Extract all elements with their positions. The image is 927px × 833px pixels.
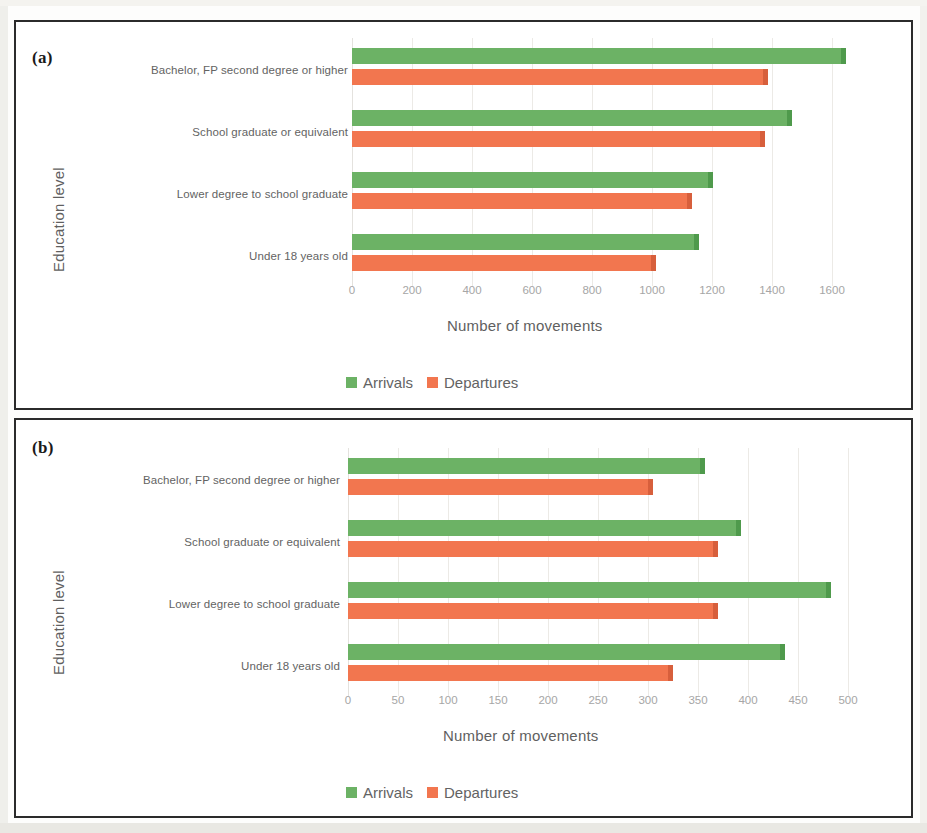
page-edge-top [0, 0, 927, 6]
y-axis-title-b: Education level [50, 570, 67, 675]
bar-body [348, 520, 736, 536]
bar-departures [352, 131, 765, 152]
x-axis-tick-label: 600 [522, 284, 541, 296]
bar-side-face [826, 582, 831, 598]
bar-departures [348, 541, 718, 562]
x-axis-tick-label: 1600 [819, 284, 845, 296]
legend-swatch-green-icon [346, 787, 357, 798]
legend-label-arrivals-b: Arrivals [363, 784, 413, 801]
bar-departures [348, 665, 673, 686]
bar-arrivals [348, 582, 831, 603]
bar-body [348, 665, 668, 681]
bar-departures [352, 69, 768, 90]
bar-side-face [687, 193, 692, 209]
bar-body [352, 193, 687, 209]
x-axis-title-text-a: Number of movements [447, 317, 603, 334]
bar-arrivals [348, 520, 741, 541]
x-axis-tick-label: 1400 [759, 284, 785, 296]
bar-arrivals [352, 172, 713, 193]
bar-body [352, 234, 694, 250]
bar-departures [348, 479, 653, 500]
y-axis-category-label: Under 18 years old [241, 660, 340, 672]
x-axis-tick-label: 100 [438, 694, 457, 706]
bar-side-face [651, 255, 656, 271]
legend-label-departures-b: Departures [444, 784, 518, 801]
x-axis-tick-label: 150 [488, 694, 507, 706]
x-axis-tick-label: 250 [588, 694, 607, 706]
legend-label-departures-a: Departures [444, 374, 518, 391]
legend-item-departures-b[interactable]: Departures [427, 784, 518, 801]
x-axis-tick-label: 300 [638, 694, 657, 706]
legend-b: Arrivals Departures [346, 784, 518, 801]
y-axis-category-label: Under 18 years old [249, 250, 348, 262]
y-axis-category-label: Bachelor, FP second degree or higher [143, 474, 340, 486]
x-axis-tick-label: 200 [538, 694, 557, 706]
x-axis-tick-label: 450 [788, 694, 807, 706]
bar-side-face [780, 644, 785, 660]
y-axis-category-label: School graduate or equivalent [192, 126, 348, 138]
bar-side-face [763, 69, 768, 85]
bar-side-face [841, 48, 846, 64]
gridline [848, 448, 849, 696]
x-axis-tick-label: 50 [392, 694, 405, 706]
y-axis-category-label: School graduate or equivalent [184, 536, 340, 548]
bar-arrivals [352, 48, 846, 69]
bar-arrivals [348, 644, 785, 665]
legend-swatch-green-icon [346, 377, 357, 388]
legend-swatch-orange-icon [427, 377, 438, 388]
bar-side-face [648, 479, 653, 495]
x-axis-tick-label: 1200 [699, 284, 725, 296]
bar-body [348, 603, 713, 619]
x-axis-tick-label: 800 [582, 284, 601, 296]
panel-label-b: (b) [32, 438, 54, 458]
bar-side-face [713, 541, 718, 557]
bar-departures [352, 255, 656, 276]
x-axis-tick-label: 400 [462, 284, 481, 296]
page-edge-left [0, 0, 8, 833]
legend-swatch-orange-icon [427, 787, 438, 798]
page-edge-bottom [0, 823, 927, 833]
bar-side-face [668, 665, 673, 681]
y-axis-category-label: Lower degree to school graduate [177, 188, 348, 200]
x-axis-tick-label: 350 [688, 694, 707, 706]
bar-side-face [787, 110, 792, 126]
x-axis-tick-label: 0 [345, 694, 351, 706]
bar-side-face [760, 131, 765, 147]
legend-item-arrivals-a[interactable]: Arrivals [346, 374, 413, 391]
legend-label-arrivals-a: Arrivals [363, 374, 413, 391]
chart-panel-b: (b) Education level Bachelor, FP second … [14, 418, 913, 818]
legend-a: Arrivals Departures [346, 374, 518, 391]
x-axis-tick-label: 400 [738, 694, 757, 706]
panel-label-a: (a) [32, 48, 53, 68]
gridline [832, 38, 833, 286]
bar-body [352, 255, 651, 271]
chart-panel-a: (a) Education level Bachelor, FP second … [14, 20, 913, 410]
y-axis-title-a: Education level [50, 167, 67, 272]
bar-body [348, 582, 826, 598]
bar-body [352, 69, 763, 85]
bar-side-face [713, 603, 718, 619]
y-axis-category-label: Lower degree to school graduate [169, 598, 340, 610]
page-edge-right [920, 0, 927, 833]
gridline [798, 448, 799, 696]
bar-body [348, 644, 780, 660]
x-axis-tick-label: 200 [402, 284, 421, 296]
bar-body [348, 479, 648, 495]
legend-item-departures-a[interactable]: Departures [427, 374, 518, 391]
bar-body [348, 541, 713, 557]
bar-side-face [708, 172, 713, 188]
x-axis-tick-label: 1000 [639, 284, 665, 296]
y-axis-category-label: Bachelor, FP second degree or higher [151, 64, 348, 76]
figure-page: (a) Education level Bachelor, FP second … [0, 0, 927, 833]
bar-side-face [700, 458, 705, 474]
bar-arrivals [352, 110, 792, 131]
x-axis-title-b: Number of movements [443, 727, 599, 744]
bar-side-face [694, 234, 699, 250]
bar-body [352, 131, 760, 147]
bar-departures [352, 193, 692, 214]
legend-item-arrivals-b[interactable]: Arrivals [346, 784, 413, 801]
bar-body [352, 172, 708, 188]
bar-body [352, 110, 787, 126]
bar-side-face [736, 520, 741, 536]
x-axis-tick-label: 0 [349, 284, 355, 296]
